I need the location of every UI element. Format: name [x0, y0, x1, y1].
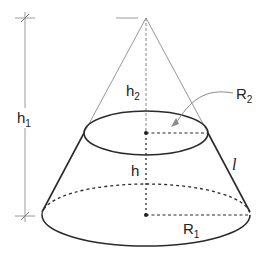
label-h2: h2 [126, 82, 140, 102]
frustum-diagram: h1 h2 h R2 R1 l [0, 0, 267, 258]
bottom-ellipse-front [42, 215, 250, 246]
label-r1: R1 [183, 220, 200, 240]
label-r2: R2 [236, 85, 253, 105]
label-h: h [131, 162, 139, 179]
label-h1: h1 [17, 109, 31, 129]
slant-right [208, 133, 250, 212]
bottom-center-point [144, 213, 148, 217]
label-slant-l: l [232, 156, 237, 173]
slant-left [42, 133, 84, 212]
top-center-point [144, 131, 148, 135]
